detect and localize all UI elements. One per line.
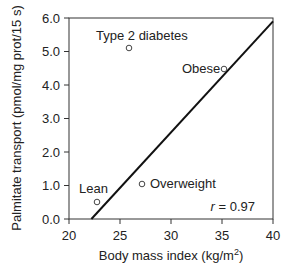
point-lean (94, 199, 100, 205)
y-tick-label: 1.0 (42, 178, 60, 193)
y-axis: 0.0 1.0 2.0 3.0 4.0 5.0 6.0 (42, 11, 69, 227)
x-axis: 20 25 30 35 40 (62, 219, 280, 243)
y-tick-label: 3.0 (42, 111, 60, 126)
y-axis-title: Palmitate transport (pmol/mg prot/15 s) (9, 5, 24, 230)
label-obese: Obese (182, 61, 220, 76)
y-tick-label: 2.0 (42, 145, 60, 160)
x-tick-label: 40 (266, 228, 280, 243)
point-type2-diabetes (126, 45, 132, 51)
label-type2-diabetes: Type 2 diabetes (96, 28, 188, 43)
x-tick-label: 30 (164, 228, 178, 243)
label-lean: Lean (79, 181, 108, 196)
x-tick-label: 20 (62, 228, 76, 243)
point-obese (221, 66, 227, 72)
correlation-annotation: r = 0.97 (211, 199, 255, 214)
scatter-chart: 0.0 1.0 2.0 3.0 4.0 5.0 6.0 20 25 30 35 … (0, 0, 294, 271)
x-tick-label: 25 (113, 228, 127, 243)
x-axis-title: Body mass index (kg/m2) (99, 247, 243, 263)
y-tick-label: 0.0 (42, 212, 60, 227)
label-overweight: Overweight (150, 176, 216, 191)
y-tick-label: 6.0 (42, 11, 60, 26)
y-tick-label: 4.0 (42, 78, 60, 93)
x-tick-label: 35 (215, 228, 229, 243)
y-tick-label: 5.0 (42, 44, 60, 59)
point-overweight (139, 181, 145, 187)
